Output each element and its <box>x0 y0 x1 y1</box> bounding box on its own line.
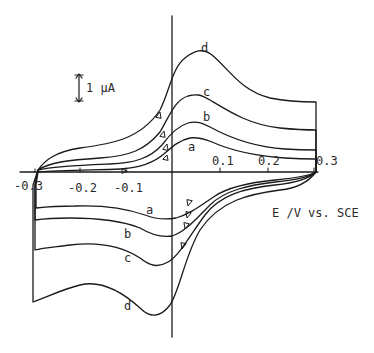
curve-label-d-top: d <box>201 42 208 54</box>
x-tick-label-m01: -0.1 <box>114 182 143 194</box>
curve-label-a-top: a <box>188 141 195 153</box>
x-axis-title: E /V vs. SCE <box>272 207 359 219</box>
curve-label-c-top: c <box>203 86 210 98</box>
x-tick-label-p03: 0.3 <box>316 155 338 167</box>
x-tick-label-p01: 0.1 <box>212 155 234 167</box>
current-scale-bar <box>75 74 83 102</box>
curve-label-d-bottom: d <box>124 300 131 312</box>
curve-label-c-bottom: c <box>124 252 131 264</box>
scale-bar-label: 1 µA <box>86 82 115 94</box>
curve-label-b-bottom: b <box>124 228 131 240</box>
curve-label-a-bottom: a <box>146 204 153 216</box>
x-tick-label-m02: -0.2 <box>68 182 97 194</box>
x-tick-label-p02: 0.2 <box>258 155 280 167</box>
curve-label-b-top: b <box>203 111 210 123</box>
x-tick-label-m03: -0.3 <box>14 180 43 192</box>
cyclic-voltammogram-plot <box>0 0 374 353</box>
